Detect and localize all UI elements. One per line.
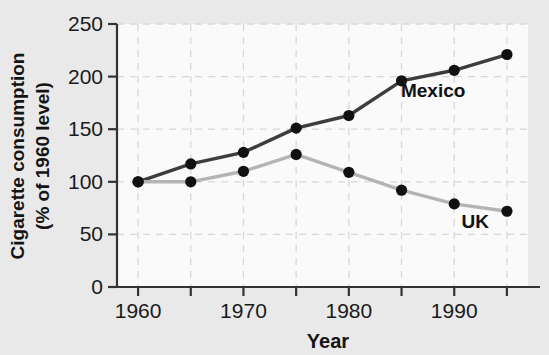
x-axis-ticks — [138, 287, 507, 296]
y-tick-label: 0 — [91, 275, 103, 298]
y-tick-label: 200 — [68, 65, 103, 88]
data-point-mexico-1995 — [501, 49, 512, 60]
y-tick-label: 150 — [68, 117, 103, 140]
y-axis-tick-labels: 050100150200250 — [68, 12, 103, 298]
data-point-uk-1970 — [238, 166, 249, 177]
data-point-mexico-1975 — [291, 123, 302, 134]
data-point-mexico-1970 — [238, 147, 249, 158]
x-tick-label: 1960 — [115, 299, 162, 322]
y-tick-label: 50 — [80, 222, 103, 245]
plot-area-background — [117, 24, 528, 287]
x-axis-tick-labels: 1960197019801990 — [115, 299, 478, 322]
data-point-uk-1985 — [396, 185, 407, 196]
data-point-uk-1990 — [449, 198, 460, 209]
x-axis-title: Year — [307, 330, 349, 352]
data-point-uk-1995 — [501, 206, 512, 217]
chart-figure: 050100150200250 1960197019801990 MexicoU… — [0, 0, 549, 355]
y-tick-label: 100 — [68, 170, 103, 193]
data-point-mexico-1990 — [449, 65, 460, 76]
data-point-uk-1980 — [343, 167, 354, 178]
y-axis-title-line-1: Cigarette consumption — [7, 53, 28, 260]
series-label-uk: UK — [462, 211, 490, 232]
data-point-mexico-1980 — [343, 110, 354, 121]
y-axis-ticks — [108, 24, 117, 287]
data-point-uk-1960 — [132, 176, 143, 187]
x-tick-label: 1980 — [325, 299, 372, 322]
cigarette-consumption-line-chart: 050100150200250 1960197019801990 MexicoU… — [0, 0, 549, 355]
x-tick-label: 1990 — [431, 299, 478, 322]
y-axis-title-line-2: (% of 1960 level) — [32, 82, 53, 230]
y-tick-label: 250 — [68, 12, 103, 35]
x-tick-label: 1970 — [220, 299, 267, 322]
data-point-mexico-1965 — [185, 158, 196, 169]
data-point-uk-1965 — [185, 176, 196, 187]
data-point-uk-1975 — [291, 149, 302, 160]
series-label-mexico: Mexico — [401, 80, 465, 101]
